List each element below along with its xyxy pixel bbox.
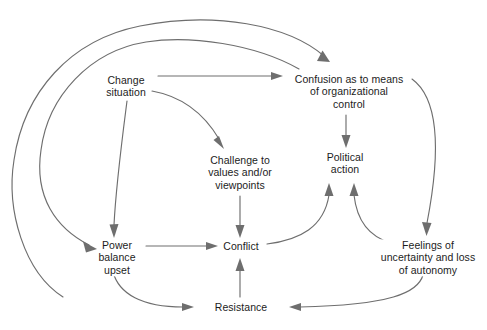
node-feelings-line-3: of autonomy <box>381 264 475 276</box>
node-challenge-line-3: viewpoints <box>208 179 272 191</box>
node-challenge: Challenge to values and/or viewpoints <box>207 154 273 191</box>
edge-change-to-challenge <box>152 91 224 149</box>
edge-power-to-conflict <box>146 242 218 250</box>
edge-change-to-power <box>110 101 128 238</box>
node-political-action-line-1: Political <box>327 151 364 163</box>
node-change-situation-line-1: Change <box>106 74 146 86</box>
diagram-canvas: Change situation Confusion as to means o… <box>0 0 487 330</box>
node-conflict: Conflict <box>222 240 259 252</box>
node-confusion-line-3: control <box>295 98 403 110</box>
node-confusion-line-1: Confusion as to means <box>295 73 403 85</box>
node-power-balance-upset-line-3: upset <box>98 264 135 276</box>
edge-change-to-confusion <box>158 72 283 80</box>
node-change-situation-line-2: situation <box>106 86 146 98</box>
node-political-action: Political action <box>326 151 365 176</box>
edge-resistance-to-conflict <box>236 258 245 297</box>
node-resistance: Resistance <box>214 301 268 313</box>
edge-resistance-loop-to-confusion <box>12 20 330 297</box>
edge-resistance-loop-to-power <box>40 40 299 253</box>
edge-confusion-to-political <box>342 115 351 148</box>
node-feelings-line-1: Feelings of <box>381 239 475 251</box>
node-power-balance-upset-line-2: balance <box>98 252 135 264</box>
node-political-action-line-2: action <box>327 163 364 175</box>
edge-confusion-to-feelings <box>412 79 436 236</box>
edge-conflict-to-political <box>267 183 334 244</box>
node-conflict-line-1: Conflict <box>223 240 258 252</box>
node-power-balance-upset-line-1: Power <box>98 239 135 251</box>
edge-feelings-to-resistance <box>289 275 423 311</box>
edge-power-to-resistance <box>113 272 194 311</box>
edge-challenge-to-conflict <box>236 196 245 238</box>
edge-feelings-to-political <box>350 183 392 243</box>
node-confusion: Confusion as to means of organizational … <box>294 73 404 110</box>
node-feelings: Feelings of uncertainty and loss of auto… <box>380 239 476 276</box>
node-feelings-line-2: uncertainty and loss <box>381 252 475 264</box>
node-resistance-line-1: Resistance <box>215 301 267 313</box>
node-power-balance-upset: Power balance upset <box>97 239 136 276</box>
node-challenge-line-2: values and/or <box>208 167 272 179</box>
node-confusion-line-2: of organizational <box>295 86 403 98</box>
node-change-situation: Change situation <box>105 74 147 99</box>
node-challenge-line-1: Challenge to <box>208 154 272 166</box>
